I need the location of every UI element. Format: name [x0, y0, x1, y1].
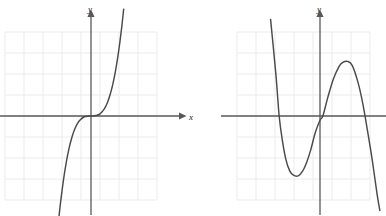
right-curve — [271, 19, 380, 210]
right-graph-figure: y — [193, 0, 386, 216]
right-graph-svg: y — [193, 0, 386, 216]
left-graph-figure: y x — [0, 0, 193, 216]
left-y-axis — [87, 10, 94, 216]
left-graph-svg: y x — [0, 0, 193, 216]
figure-page: y x — [0, 0, 386, 216]
left-y-axis-label: y — [87, 4, 92, 14]
right-y-axis-label: y — [316, 4, 321, 14]
right-y-axis — [316, 10, 323, 216]
